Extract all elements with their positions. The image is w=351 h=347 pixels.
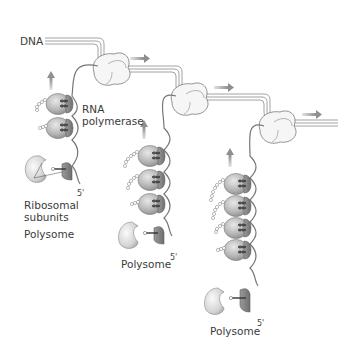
polysome-1 — [25, 94, 73, 183]
rna-polymerase-label-line1: RNA — [82, 103, 104, 115]
direction-arrow-3 — [302, 110, 322, 119]
ribosomal-subunits-label-line2: subunits — [24, 211, 69, 223]
direction-arrow-1 — [130, 54, 150, 63]
free-large-subunit — [25, 156, 46, 183]
polysome-label-1: Polysome — [24, 228, 74, 240]
five-prime-label-2: 5' — [170, 252, 177, 264]
polysome-label-3: Polysome — [210, 325, 260, 337]
direction-arrow-2 — [214, 83, 234, 92]
five-prime-label-3: 5' — [257, 318, 264, 330]
ribosomal-subunits-label-line1: Ribosomal — [24, 199, 79, 211]
rna-polymerase-label-line2: polymerase — [82, 115, 144, 127]
rna-polymerase-3 — [259, 111, 296, 143]
five-prime-label-1: 5' — [77, 188, 84, 200]
upward-arrow-3 — [226, 148, 234, 167]
upward-arrow-1 — [47, 71, 55, 90]
free-large-subunit — [205, 288, 225, 314]
transcription-translation-diagram — [0, 0, 351, 347]
free-large-subunit — [119, 222, 139, 248]
polysome-label-2: Polysome — [121, 258, 171, 270]
rna-polymerase-2 — [171, 83, 208, 115]
polysome-2 — [119, 146, 166, 249]
polysome-3 — [205, 174, 252, 315]
dna-label: DNA — [20, 35, 43, 47]
rna-polymerase-1 — [93, 53, 130, 85]
